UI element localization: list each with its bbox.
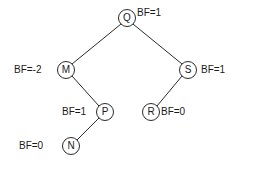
tree-node-q[interactable]: Q <box>118 9 136 27</box>
tree-node-m[interactable]: M <box>57 61 75 79</box>
balance-factor-label-m: BF=-2 <box>14 65 42 75</box>
tree-edge-q-s <box>133 24 182 64</box>
tree-edge-m-p <box>72 76 99 106</box>
balance-factor-label-s: BF=1 <box>201 65 225 75</box>
tree-diagram-canvas: QMSPRN BF=1BF=-2BF=1BF=1BF=0BF=0 <box>0 0 254 169</box>
tree-edge-p-n <box>77 118 99 140</box>
tree-node-p[interactable]: P <box>96 103 114 121</box>
tree-edge-q-m <box>72 24 121 64</box>
balance-factor-label-p: BF=1 <box>62 107 86 117</box>
balance-factor-label-q: BF=1 <box>137 8 161 18</box>
tree-node-s[interactable]: S <box>179 61 197 79</box>
balance-factor-label-r: BF=0 <box>161 107 185 117</box>
tree-node-n[interactable]: N <box>62 137 80 155</box>
balance-factor-label-n: BF=0 <box>19 141 43 151</box>
tree-edge-s-r <box>157 76 182 106</box>
tree-node-r[interactable]: R <box>142 103 160 121</box>
